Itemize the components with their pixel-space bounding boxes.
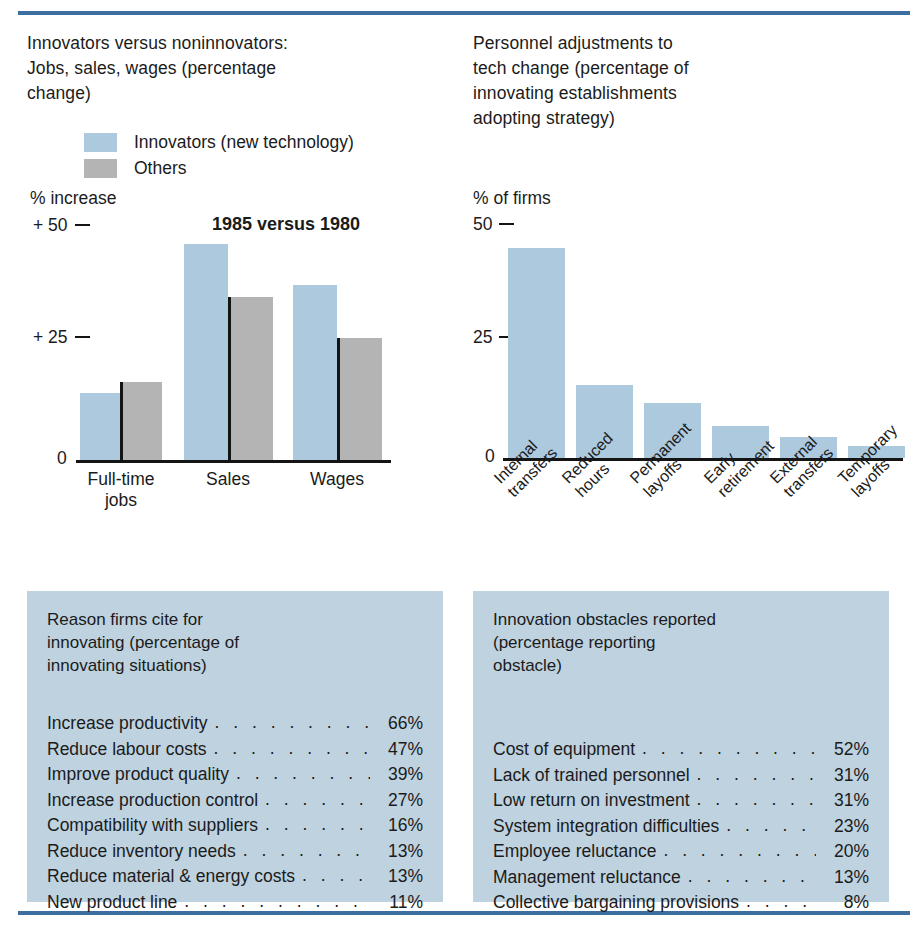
obstacle-name: Management reluctance — [493, 865, 681, 891]
obstacle-value: 13% — [823, 865, 869, 891]
right-plot-area: Internal transfers Reduced hours Permane… — [455, 22, 910, 582]
list-item: Reduce labour costs . . . . . . . . . . … — [47, 737, 423, 763]
cat-label-fulltime-jobs: Full-time jobs — [61, 469, 181, 511]
list-item: Employee reluctance . . . . . . . . . . … — [493, 839, 869, 865]
reason-value: 13% — [377, 864, 423, 890]
top-rule — [18, 11, 910, 15]
left-baseline — [76, 460, 391, 463]
left-plot-area: Full-time jobs Sales Wages — [0, 22, 455, 582]
obstacle-name: System integration difficulties — [493, 814, 719, 840]
reason-value: 13% — [377, 839, 423, 865]
bar-sales-innovators — [184, 244, 228, 460]
obstacle-value: 20% — [823, 839, 869, 865]
reason-name: Reduce inventory needs — [47, 839, 236, 865]
reason-value: 39% — [377, 762, 423, 788]
list-item: System integration difficulties . . . . … — [493, 814, 869, 840]
reason-value: 27% — [377, 788, 423, 814]
leader-dots: . . . . . . . . . . . . . . . . . . . . — [243, 838, 370, 864]
leader-dots: . . . . . . . . . . . . . . . . . . . . — [663, 838, 816, 864]
bar-wages-innovators — [293, 285, 337, 460]
list-item: Increase production control . . . . . . … — [47, 788, 423, 814]
leader-dots: . . . . . . . . . . . . . . . . . . . . — [236, 761, 370, 787]
bar-fulltime-innovators — [80, 393, 120, 460]
obstacles-panel-list: Cost of equipment . . . . . . . . . . . … — [493, 737, 869, 916]
leader-dots: . . . . . . . . . . . . . . . . . . . . — [302, 863, 370, 889]
leader-dots: . . . . . . . . . . . . . . . . . . . . — [214, 736, 370, 762]
reasons-panel-title: Reason firms cite for innovating (percen… — [47, 608, 423, 677]
bar-fulltime-others — [120, 382, 162, 460]
leader-dots: . . . . . . . . . . . . . . . . . . . . — [697, 762, 816, 788]
leader-dots: . . . . . . . . . . . . . . . . . . . . — [746, 889, 816, 915]
reason-name: New product line — [47, 890, 177, 916]
leader-dots: . . . . . . . . . . . . . . . . . . . . — [726, 813, 816, 839]
left-chart-column: Innovators versus noninnovators: Jobs, s… — [0, 22, 455, 582]
bar-wages-others — [337, 338, 382, 460]
obstacle-value: 52% — [823, 737, 869, 763]
leader-dots: . . . . . . . . . . . . . . . . . . . . — [642, 736, 816, 762]
obstacles-panel: Innovation obstacles reported (percentag… — [473, 591, 889, 902]
list-item: Increase productivity . . . . . . . . . … — [47, 711, 423, 737]
leader-dots: . . . . . . . . . . . . . . . . . . . . — [215, 710, 371, 736]
reason-value: 66% — [377, 711, 423, 737]
obstacle-value: 31% — [823, 763, 869, 789]
bar-sales-others — [228, 297, 273, 460]
reason-name: Compatibility with suppliers — [47, 813, 258, 839]
obstacle-name: Collective bargaining provisions — [493, 890, 739, 916]
obstacle-name: Employee reluctance — [493, 839, 656, 865]
obstacles-panel-title: Innovation obstacles reported (percentag… — [493, 608, 869, 677]
list-item: Low return on investment . . . . . . . .… — [493, 788, 869, 814]
reason-value: 47% — [377, 737, 423, 763]
list-item: Reduce material & energy costs . . . . .… — [47, 864, 423, 890]
right-chart-column: Personnel adjustments to tech change (pe… — [455, 22, 910, 582]
obstacle-value: 23% — [823, 814, 869, 840]
right-baseline — [503, 458, 903, 461]
list-item: Management reluctance . . . . . . . . . … — [493, 865, 869, 891]
cat-label-sales: Sales — [168, 469, 288, 490]
list-item: New product line . . . . . . . . . . . .… — [47, 890, 423, 916]
list-item: Lack of trained personnel . . . . . . . … — [493, 763, 869, 789]
leader-dots: . . . . . . . . . . . . . . . . . . . . — [184, 889, 370, 915]
obstacle-name: Lack of trained personnel — [493, 763, 690, 789]
obstacle-name: Cost of equipment — [493, 737, 635, 763]
list-item: Improve product quality . . . . . . . . … — [47, 762, 423, 788]
leader-dots: . . . . . . . . . . . . . . . . . . . . — [265, 787, 370, 813]
reason-name: Improve product quality — [47, 762, 229, 788]
list-item: Reduce inventory needs . . . . . . . . .… — [47, 839, 423, 865]
leader-dots: . . . . . . . . . . . . . . . . . . . . — [688, 864, 816, 890]
reason-value: 11% — [377, 890, 423, 916]
cat-label-temporary-layoffs: Temporary layoffs — [834, 421, 910, 501]
reason-name: Reduce material & energy costs — [47, 864, 295, 890]
reason-name: Reduce labour costs — [47, 737, 207, 763]
reason-value: 16% — [377, 813, 423, 839]
list-item: Cost of equipment . . . . . . . . . . . … — [493, 737, 869, 763]
obstacle-name: Low return on investment — [493, 788, 690, 814]
obstacle-value: 31% — [823, 788, 869, 814]
leader-dots: . . . . . . . . . . . . . . . . . . . . — [697, 787, 817, 813]
list-item: Collective bargaining provisions . . . .… — [493, 890, 869, 916]
figure-root: Innovators versus noninnovators: Jobs, s… — [0, 0, 910, 936]
bar-internal-transfers — [508, 248, 565, 458]
list-item: Compatibility with suppliers . . . . . .… — [47, 813, 423, 839]
reasons-panel-list: Increase productivity . . . . . . . . . … — [47, 711, 423, 915]
reason-name: Increase productivity — [47, 711, 208, 737]
reasons-panel: Reason firms cite for innovating (percen… — [27, 591, 443, 902]
cat-label-wages: Wages — [277, 469, 397, 490]
leader-dots: . . . . . . . . . . . . . . . . . . . . — [265, 812, 370, 838]
obstacle-value: 8% — [823, 890, 869, 916]
reason-name: Increase production control — [47, 788, 258, 814]
